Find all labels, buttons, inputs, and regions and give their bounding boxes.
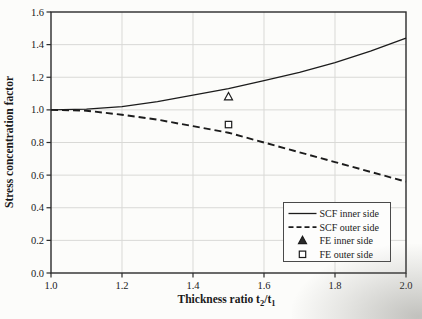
x-tick-label: 1.8 <box>328 280 341 291</box>
x-tick-label: 1.0 <box>44 280 57 291</box>
y-tick-label: 1.0 <box>31 104 44 115</box>
y-tick-label: 0.0 <box>31 268 44 279</box>
y-tick-label: 1.2 <box>31 72 44 83</box>
legend-square-sample <box>299 251 305 257</box>
y-tick-label: 1.6 <box>31 7 44 18</box>
x-tick-label: 1.2 <box>115 280 128 291</box>
legend-label: SCF outer side <box>320 222 380 233</box>
y-tick-label: 0.8 <box>31 137 44 148</box>
y-tick-label: 0.4 <box>31 202 45 213</box>
legend-label: FE inner side <box>320 235 374 246</box>
chart-canvas: 1.01.21.41.61.82.00.00.20.40.60.81.01.21… <box>0 0 422 319</box>
x-tick-label: 1.4 <box>186 280 200 291</box>
fe-outer-side-marker <box>225 121 231 127</box>
x-tick-label: 2.0 <box>399 280 412 291</box>
scf-outer-side-curve <box>51 110 406 182</box>
x-tick-label: 1.6 <box>257 280 270 291</box>
fe-inner-side-marker <box>225 92 233 99</box>
legend-label: FE outer side <box>320 249 374 260</box>
y-axis-title: Stress concentration factor <box>3 76 15 208</box>
legend-label: SCF inner side <box>320 208 380 219</box>
y-tick-label: 0.6 <box>31 170 44 181</box>
scf-chart-figure: 1.01.21.41.61.82.00.00.20.40.60.81.01.21… <box>0 0 422 319</box>
y-tick-label: 1.4 <box>31 39 45 50</box>
x-axis-title: Thickness ratio t2/t1 <box>178 293 276 308</box>
y-tick-label: 0.2 <box>31 235 44 246</box>
legend: SCF inner sideSCF outer sideFE inner sid… <box>284 203 391 262</box>
